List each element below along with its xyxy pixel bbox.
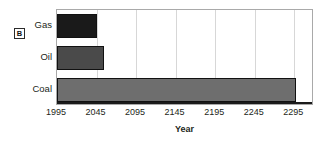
x-tick-label: 2295 [283, 108, 303, 117]
x-axis-tick-labels: 1995204520952145219522452295 [56, 108, 313, 122]
bar-oil [57, 46, 104, 70]
x-tick-label: 2245 [244, 108, 264, 117]
bar-coal [57, 78, 296, 102]
category-label-coal: Coal [4, 84, 52, 94]
bar-chart-figure: B Gas Oil Coal 1995204520952145219522452… [0, 0, 327, 145]
x-tick-label: 2145 [165, 108, 185, 117]
category-label-gas: Gas [4, 20, 52, 30]
plot-area [56, 9, 313, 105]
x-tick-label: 2095 [125, 108, 145, 117]
category-label-oil: Oil [4, 52, 52, 62]
category-axis-labels: Gas Oil Coal [0, 0, 52, 145]
x-tick-label: 2195 [204, 108, 224, 117]
x-tick-label: 2045 [86, 108, 106, 117]
x-axis-line [57, 102, 312, 104]
x-axis-title: Year [56, 125, 313, 134]
x-tick-label: 1995 [46, 108, 66, 117]
bar-gas [57, 14, 97, 38]
